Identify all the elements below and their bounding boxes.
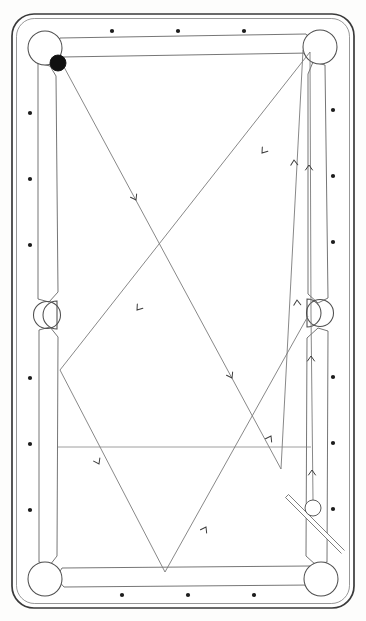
rail-diamond-top-2: [176, 29, 180, 33]
rail-diamond-bottom-3: [252, 593, 256, 597]
cue-ball[interactable]: [305, 500, 321, 516]
rail-diamond-bottom-2: [186, 593, 190, 597]
table-frame: [12, 14, 354, 608]
rail-diamond-left-4: [28, 376, 32, 380]
rail-diamond-right-6: [331, 507, 335, 511]
table-outer-frame: [12, 14, 354, 608]
rail-diamond-right-3: [331, 240, 335, 244]
diagram-page: Pool Table Bank Shot Diagram Pool Table …: [0, 0, 366, 621]
rail-diamond-right-5: [331, 441, 335, 445]
rail-diamond-left-3: [28, 243, 32, 247]
rail-diamond-top-1: [110, 29, 114, 33]
cushion-left-lower: [39, 327, 58, 565]
rail-diamond-top-3: [242, 29, 246, 33]
rail-diamond-right-4: [331, 375, 335, 379]
pocket-bottom-right[interactable]: [304, 562, 338, 596]
cushion-left-upper: [38, 63, 58, 302]
cushion-bottom: [56, 566, 317, 587]
rail-diamond-left-1: [28, 111, 32, 115]
pocket-bottom-left[interactable]: [28, 562, 62, 596]
pool-table-diagram: [0, 0, 366, 621]
rail-diamond-bottom-1: [120, 593, 124, 597]
rail-diamond-right-2: [331, 174, 335, 178]
pocket-top-right[interactable]: [303, 30, 337, 64]
object-ball-black[interactable]: [50, 55, 66, 71]
rail-diamond-right-1: [331, 108, 335, 112]
cushion-top: [54, 34, 314, 57]
rail-diamond-left-2: [28, 177, 32, 181]
rail-diamond-left-6: [28, 508, 32, 512]
rail-diamond-left-5: [28, 442, 32, 446]
